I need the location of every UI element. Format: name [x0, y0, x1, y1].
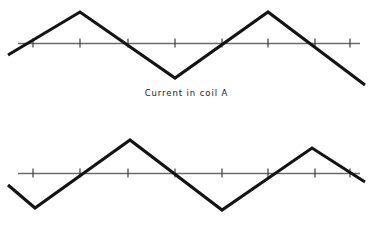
- waveform-figure: Current in coil A Current in coil B: [0, 0, 373, 236]
- panel-current-coil-a: Current in coil A: [0, 0, 373, 118]
- caption-coil-a-letter: A: [222, 88, 229, 98]
- panel-current-coil-b: Current in coil B: [0, 118, 373, 236]
- caption-coil-a: Current in coil A: [0, 88, 373, 98]
- waveform-trace-b: [8, 140, 365, 210]
- caption-coil-a-prefix: Current in coil: [145, 88, 222, 98]
- waveform-plot-b: [0, 118, 373, 214]
- waveform-trace-a: [8, 12, 365, 85]
- waveform-plot-a: [0, 0, 373, 96]
